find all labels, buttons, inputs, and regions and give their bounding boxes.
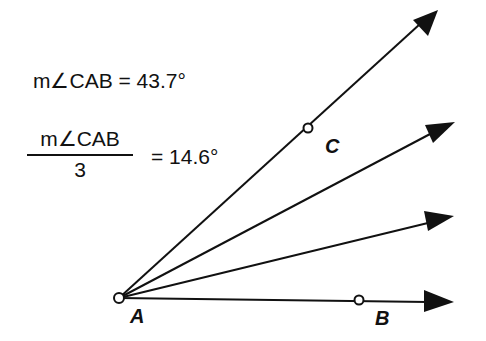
- ray-trisector-lower: [119, 222, 432, 298]
- arrowhead-ray-ac: [413, 10, 438, 36]
- ray-ab: [119, 298, 428, 302]
- angle-fraction: m∠CAB 3: [27, 127, 133, 182]
- label-b: B: [375, 307, 389, 330]
- arrowhead-ray-ab: [424, 290, 454, 312]
- fraction-numerator: m∠CAB: [27, 127, 133, 156]
- point-b: [355, 296, 364, 305]
- fraction-result: = 14.6°: [151, 145, 218, 169]
- point-c: [304, 124, 313, 133]
- arrowhead-ray-trisector-upper: [425, 122, 455, 143]
- point-a: [114, 293, 124, 303]
- angle-measure-equation: m∠CAB = 43.7°: [33, 69, 186, 93]
- fraction-denominator: 3: [27, 156, 133, 182]
- label-a: A: [130, 305, 144, 328]
- label-c: C: [325, 135, 339, 158]
- arrowhead-ray-trisector-lower: [424, 211, 454, 231]
